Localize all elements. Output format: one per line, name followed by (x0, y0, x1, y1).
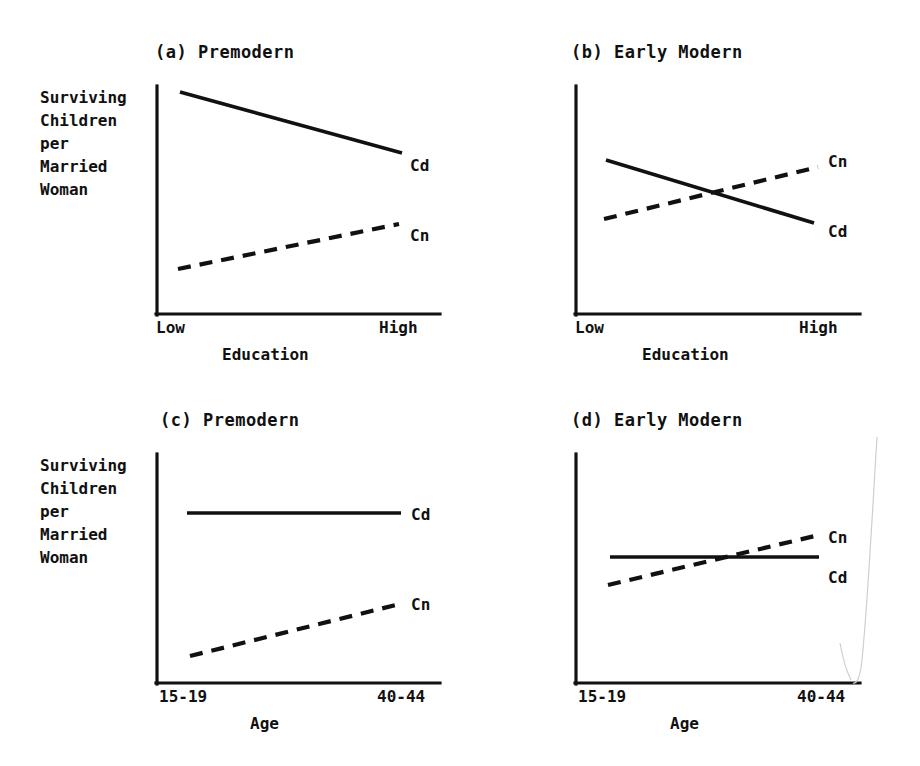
panel-d-plot (0, 0, 920, 766)
figure-panel-grid: (a) Premodern SurvivingChildrenperMarrie… (0, 0, 920, 766)
panel-d-xtick-start: 15-19 (578, 687, 626, 706)
panel-d-series-cn-label: Cn (828, 528, 847, 547)
panel-d-series-cd-label: Cd (828, 568, 847, 587)
panel-d-x-axis-title: Age (670, 714, 699, 733)
panel-d-xtick-end: 40-44 (797, 687, 845, 706)
page-crease-smudge (853, 437, 877, 683)
page-crease-smudge-secondary (840, 643, 851, 680)
panel-d-series-cn-line (608, 535, 819, 585)
